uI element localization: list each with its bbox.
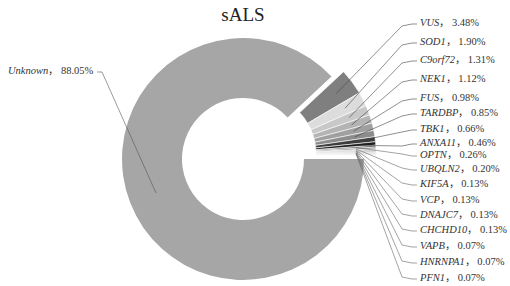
label-sod1: SOD1， 1.90% xyxy=(420,36,486,47)
label-pfn1: PFN1， 0.07% xyxy=(419,272,485,283)
label-chchd10: CHCHD10， 0.13% xyxy=(420,224,507,235)
label-fus: FUS， 0.98% xyxy=(419,92,479,103)
label-hnrnpa1: HNRNPA1， 0.07% xyxy=(419,256,505,267)
label-vapb: VAPB， 0.07% xyxy=(420,240,485,251)
label-kif5a: KIF5A， 0.13% xyxy=(419,178,489,189)
donut-chart: Unknown， 88.05%VUS， 3.48%SOD1， 1.90%C9or… xyxy=(0,0,510,286)
label-c9orf72: C9orf72， 1.31% xyxy=(420,54,495,65)
label-anxa11: ANXA11， 0.46% xyxy=(419,137,496,148)
label-dnajc7: DNAJC7， 0.13% xyxy=(419,209,498,220)
label-nek1: NEK1， 1.12% xyxy=(419,73,486,84)
leader-pfn1 xyxy=(356,154,417,279)
donut-slices xyxy=(122,38,376,280)
label-ubqln2: UBQLN2， 0.20% xyxy=(420,163,500,174)
label-optn: OPTN， 0.26% xyxy=(420,149,487,160)
label-tardbp: TARDBP， 0.85% xyxy=(420,107,498,118)
leader-hnrnpa1 xyxy=(356,154,417,263)
slice-unknown xyxy=(122,38,364,280)
label-unknown: Unknown， 88.05% xyxy=(8,65,94,76)
label-vcp: VCP， 0.13% xyxy=(420,194,480,205)
label-vus: VUS， 3.48% xyxy=(420,17,479,28)
label-tbk1: TBK1， 0.66% xyxy=(420,123,485,134)
